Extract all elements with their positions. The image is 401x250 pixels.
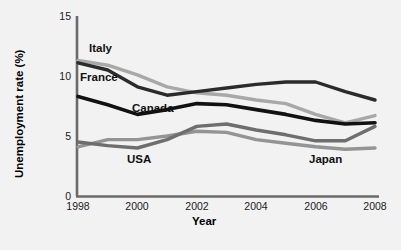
series-annotation-canada: Canada — [132, 103, 174, 115]
y-tick-label-5: 5 — [57, 131, 71, 142]
chart-screenshot: 15 10 5 0 1998 2000 2002 2004 2006 2008 … — [0, 0, 401, 250]
series-annotation-usa: USA — [127, 154, 151, 166]
x-tick-label-2004: 2004 — [242, 201, 270, 212]
x-tick-label-1998: 1998 — [64, 201, 92, 212]
x-tick-label-2000: 2000 — [123, 201, 151, 212]
y-axis-title: Unemployment rate (%) — [14, 50, 26, 178]
y-tick-label-15: 15 — [57, 11, 71, 22]
series-annotation-france: France — [80, 72, 118, 84]
x-tick-label-2002: 2002 — [183, 201, 211, 212]
y-tick-label-10: 10 — [57, 71, 71, 82]
series-line-italy — [78, 60, 375, 122]
series-paths — [78, 60, 375, 149]
x-tick-label-2006: 2006 — [302, 201, 330, 212]
series-line-usa — [78, 124, 375, 148]
series-annotation-italy: Italy — [89, 43, 112, 55]
x-tick-label-2008: 2008 — [361, 201, 389, 212]
series-annotation-japan: Japan — [309, 154, 342, 166]
x-axis-title: Year — [192, 216, 216, 228]
line-chart-figure: 15 10 5 0 1998 2000 2002 2004 2006 2008 … — [0, 0, 401, 250]
chart-canvas — [0, 0, 401, 250]
